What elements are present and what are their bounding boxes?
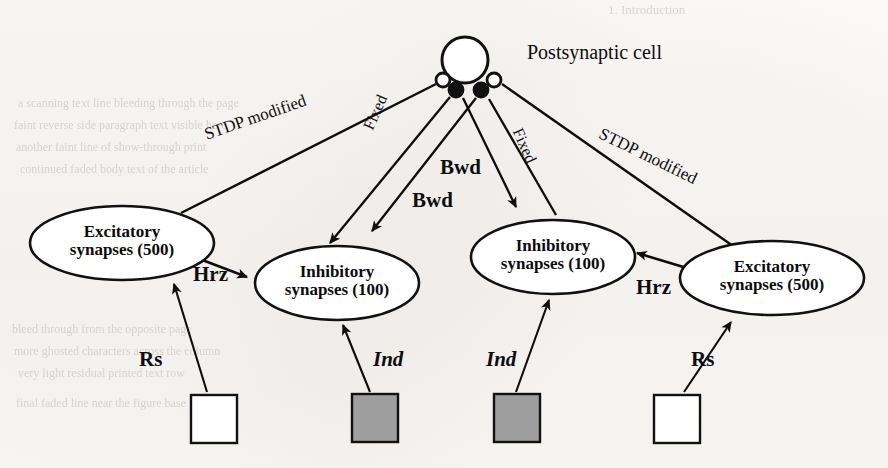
left-open-terminal xyxy=(436,73,450,87)
right-open-terminal xyxy=(487,73,501,87)
input-label-src-rs-right: Rs xyxy=(691,347,714,372)
input-square-src-rs-right xyxy=(654,395,700,443)
left-filled-terminal xyxy=(449,83,463,97)
node-ellipse-exc-right xyxy=(680,241,864,315)
node-ellipse-inh-left xyxy=(255,246,419,320)
input-square-src-ind-right xyxy=(494,394,540,442)
node-ellipse-exc-left xyxy=(30,206,214,280)
node-ellipse-inh-right xyxy=(471,220,635,294)
edge-label-bwd-upper: Bwd xyxy=(440,155,481,180)
edge-soma-to-inh-left xyxy=(330,97,450,243)
input-square-src-rs-left xyxy=(191,395,237,443)
postsynaptic-cell-label: Postsynaptic cell xyxy=(527,41,662,64)
edge-bwd-right xyxy=(463,98,516,207)
edge-ind-left-to-inh-left xyxy=(343,325,370,392)
edge-exc-right-to-inh-right xyxy=(637,253,690,269)
diagram-artwork xyxy=(0,0,888,468)
edge-ind-right-to-inh-right xyxy=(516,300,549,392)
input-label-src-ind-right: Ind xyxy=(486,347,516,372)
edge-label-hrz-left: Hrz xyxy=(193,262,228,287)
figure-canvas: 1. Introductiona scanning text line blee… xyxy=(0,0,888,468)
right-filled-terminal xyxy=(474,83,488,97)
edge-soma-to-exc-left xyxy=(181,84,436,213)
input-label-src-ind-left: Ind xyxy=(373,347,403,372)
edge-rs-left-to-exc-left xyxy=(174,284,207,392)
input-label-src-rs-left: Rs xyxy=(139,347,162,372)
edge-label-hrz-right: Hrz xyxy=(636,275,671,300)
edge-label-bwd-lower: Bwd xyxy=(412,188,453,213)
input-square-src-ind-left xyxy=(352,394,398,442)
